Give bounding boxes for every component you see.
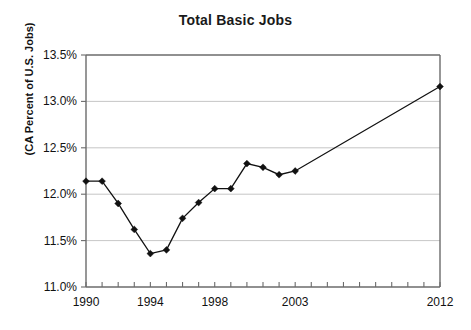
data-point-marker <box>244 160 251 167</box>
x-tick-label: 1998 <box>201 295 228 309</box>
y-tick-labels: 13.5%13.0%12.5%12.0%11.5%11.0% <box>43 48 86 294</box>
x-tick-label: 1990 <box>73 295 100 309</box>
data-point-marker <box>276 171 283 178</box>
data-point-marker <box>163 246 170 253</box>
y-tick-label: 12.0% <box>43 187 77 201</box>
data-point-marker <box>147 250 154 257</box>
y-tick-label: 11.5% <box>44 234 77 248</box>
line-chart-plot: 13.5%13.0%12.5%12.0%11.5%11.0% 199019941… <box>0 0 471 330</box>
y-tick-label: 13.5% <box>43 48 77 62</box>
data-series-group <box>83 83 444 257</box>
y-tick-label: 12.5% <box>43 141 77 155</box>
data-point-marker <box>437 83 444 90</box>
x-tick-marks <box>86 282 440 287</box>
data-point-marker <box>131 226 138 233</box>
data-point-marker <box>83 178 90 185</box>
x-tick-label: 2003 <box>282 295 309 309</box>
x-tick-labels: 19901994199820032012 <box>73 295 454 309</box>
x-tick-label: 1994 <box>137 295 164 309</box>
y-tick-label: 13.0% <box>43 94 77 108</box>
data-point-marker <box>292 168 299 175</box>
y-tick-label: 11.0% <box>44 280 77 294</box>
chart-page: Total Basic Jobs (CA Percent of U.S. Job… <box>0 0 471 330</box>
data-point-marker <box>227 185 234 192</box>
data-point-marker <box>260 164 267 171</box>
x-tick-label: 2012 <box>427 295 454 309</box>
